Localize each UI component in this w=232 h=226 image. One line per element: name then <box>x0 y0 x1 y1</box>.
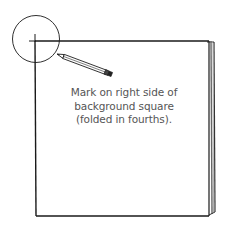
caption-line-1: Mark on right side of <box>58 86 190 100</box>
folded-layers <box>207 41 215 215</box>
background-square <box>35 41 209 216</box>
pencil-icon <box>56 52 112 77</box>
caption-line-2: background square <box>58 100 190 114</box>
highlight-circle <box>13 16 60 63</box>
instruction-caption: Mark on right side of background square … <box>58 86 190 127</box>
corner-mark <box>29 34 36 42</box>
caption-line-3: (folded in fourths). <box>58 113 190 127</box>
